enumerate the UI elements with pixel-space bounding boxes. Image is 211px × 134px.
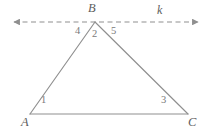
vertex-label-c: C bbox=[188, 116, 196, 129]
geometry-canvas bbox=[0, 0, 211, 134]
angle-label-4: 4 bbox=[75, 26, 80, 37]
segment-ab bbox=[30, 22, 95, 114]
line-label-k: k bbox=[157, 4, 162, 16]
angle-label-3: 3 bbox=[161, 95, 166, 106]
segment-bc bbox=[95, 22, 188, 114]
angle-label-1: 1 bbox=[41, 95, 46, 106]
vertex-label-b: B bbox=[88, 2, 96, 15]
angle-label-5: 5 bbox=[111, 26, 116, 37]
vertex-label-a: A bbox=[21, 116, 29, 129]
angle-label-2: 2 bbox=[92, 29, 97, 40]
geometry-figure: B A C k 1 2 3 4 5 bbox=[0, 0, 211, 134]
